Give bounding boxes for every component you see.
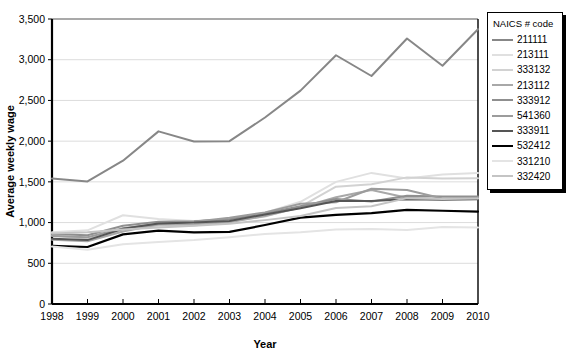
x-tick-label: 2004: [253, 310, 277, 322]
legend-item-211111[interactable]: 211111: [492, 32, 558, 47]
legend-swatch-541360: [492, 115, 513, 117]
y-tick-label: 500: [27, 257, 45, 269]
legend-label-211111: 211111: [517, 34, 547, 45]
legend-label-333912: 333912: [517, 95, 550, 106]
x-axis-title: Year: [253, 338, 277, 350]
legend-label-213112: 213112: [517, 80, 550, 91]
legend-label-331210: 331210: [517, 156, 550, 167]
legend-items: 2111112131113331322131123339125413603339…: [492, 32, 558, 184]
legend-swatch-331210: [492, 160, 513, 162]
legend-swatch-213111: [492, 54, 513, 56]
x-tick-label: 2007: [360, 310, 384, 322]
plot-background: [52, 19, 478, 304]
x-tick-label: 2001: [147, 310, 171, 322]
legend-swatch-532412: [492, 145, 513, 147]
legend-item-333132[interactable]: 333132: [492, 62, 558, 77]
legend-label-213111: 213111: [517, 49, 549, 60]
y-tick-label: 2,500: [19, 94, 45, 106]
y-tick-label: 3,000: [19, 53, 45, 65]
x-tick-label: 2002: [182, 310, 206, 322]
x-tick-label: 2003: [218, 310, 242, 322]
legend-swatch-213112: [492, 84, 513, 86]
legend-label-332420: 332420: [517, 171, 550, 182]
legend-item-541360[interactable]: 541360: [492, 108, 558, 123]
legend-item-331210[interactable]: 331210: [492, 154, 558, 169]
legend-swatch-333132: [492, 69, 513, 71]
x-tick-label: 1999: [76, 310, 100, 322]
line-chart-plot: 05001,0001,5002,0002,5003,0003,500199819…: [0, 0, 567, 358]
legend-swatch-333912: [492, 99, 513, 101]
x-tick-label: 2010: [466, 310, 490, 322]
legend-swatch-332420: [492, 175, 513, 177]
y-tick-label: 1,000: [19, 216, 45, 228]
y-tick-label: 3,500: [19, 13, 45, 25]
x-tick-label: 2008: [395, 310, 419, 322]
y-axis-title: Average weekly wage: [4, 105, 16, 218]
x-tick-label: 2006: [324, 310, 348, 322]
legend-label-532412: 532412: [517, 140, 550, 151]
legend-label-541360: 541360: [517, 110, 550, 121]
legend-item-532412[interactable]: 532412: [492, 138, 558, 153]
legend-label-333132: 333132: [517, 64, 550, 75]
legend-label-333911: 333911: [517, 125, 550, 136]
y-tick-label: 1,500: [19, 176, 45, 188]
legend-item-332420[interactable]: 332420: [492, 169, 558, 184]
x-tick-label: 2009: [431, 310, 455, 322]
chart-container: 05001,0001,5002,0002,5003,0003,500199819…: [0, 0, 567, 358]
legend-swatch-333911: [492, 130, 513, 132]
chart-legend: NAICS # code 211111213111333132213112333…: [487, 12, 563, 190]
x-tick-label: 2000: [111, 310, 135, 322]
legend-item-213112[interactable]: 213112: [492, 78, 558, 93]
legend-item-213111[interactable]: 213111: [492, 47, 558, 62]
legend-item-333911[interactable]: 333911: [492, 123, 558, 138]
legend-item-333912[interactable]: 333912: [492, 93, 558, 108]
x-tick-label: 2005: [289, 310, 313, 322]
x-tick-label: 1998: [40, 310, 64, 322]
legend-swatch-211111: [492, 39, 513, 41]
y-tick-label: 2,000: [19, 135, 45, 147]
y-tick-label: 0: [39, 298, 45, 310]
legend-title: NAICS # code: [493, 18, 558, 29]
